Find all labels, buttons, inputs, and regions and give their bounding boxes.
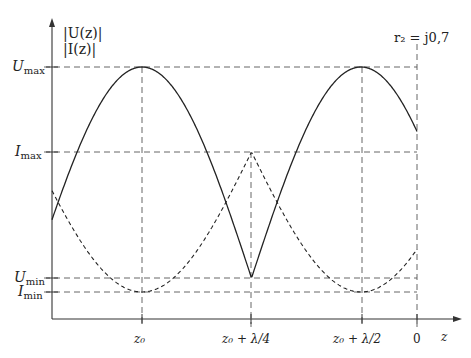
- y-tick-u-min: Umin: [14, 270, 45, 284]
- ticks: [46, 67, 417, 324]
- y-tick-i-min: Imin: [18, 284, 43, 298]
- x-tick-zero: 0: [413, 333, 421, 345]
- y-tick-i-max: Imax: [15, 144, 42, 158]
- x-axis-arrow-icon: [453, 316, 462, 322]
- y-axis-arrow-icon: [49, 18, 55, 27]
- x-tick-z0-half-wave: z₀ + λ/2: [333, 333, 381, 345]
- y-axis-label-voltage: |U(z)|: [63, 26, 103, 40]
- guide-lines: [44, 44, 417, 327]
- standing-wave-diagram: |U(z)| |I(z)| r₂ = j0,7 Umax Imax Umin I…: [0, 0, 471, 358]
- x-axis-label: z: [441, 331, 447, 343]
- x-tick-z0-quarter-wave: z₀ + λ/4: [222, 333, 270, 345]
- termination-annotation: r₂ = j0,7: [394, 31, 449, 44]
- x-tick-z0: z₀: [134, 333, 145, 345]
- y-tick-u-max: Umax: [12, 59, 45, 73]
- y-axis-label-current: |I(z)|: [63, 42, 96, 56]
